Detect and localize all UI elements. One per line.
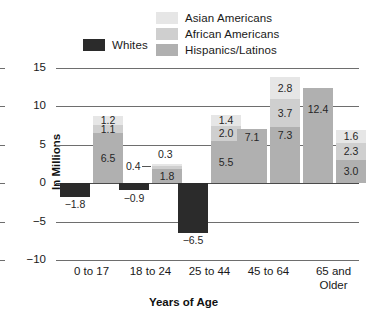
- y-tick-minus10: −10: [6, 253, 46, 265]
- segment-asian-0-to-17: 1.2: [93, 116, 123, 125]
- segment-asian-65-and-older: 1.6: [336, 130, 366, 142]
- bar-stack-65-and-older: 3.0 2.3 1.6: [336, 130, 366, 183]
- callout-line-african-18-to-24: [142, 166, 151, 167]
- segment-african-18-to-24: [152, 166, 182, 169]
- bar-whites-65-and-older: 12.4: [303, 88, 333, 183]
- segment-label-african-65-and-older: 2.3: [344, 146, 359, 157]
- y-tick-dash: [0, 106, 5, 107]
- segment-african-65-and-older: 2.3: [336, 143, 366, 161]
- bar-whites-0-to-17: [60, 183, 90, 197]
- bar-whites-45-to-64: 7.1: [237, 129, 267, 184]
- y-tick-dash: [0, 68, 5, 69]
- legend-label-asian-americans: Asian Americans: [185, 12, 272, 24]
- bar-label-whites-25-to-44: −6.5: [176, 234, 210, 246]
- bar-label-whites-65-and-older: 12.4: [308, 104, 328, 115]
- segment-hispanics-65-and-older: 3.0: [336, 160, 366, 183]
- gridline-minus10: [56, 260, 359, 261]
- segment-label-asian-65-and-older: 1.6: [344, 131, 359, 142]
- y-tick-15: 15: [6, 61, 46, 73]
- y-tick-dash: [0, 222, 5, 223]
- segment-label-hispanics-25-to-44: 5.5: [219, 157, 234, 168]
- y-tick-minus5: −5: [6, 215, 46, 227]
- segment-hispanics-0-to-17: 6.5: [93, 133, 123, 183]
- segment-label-hispanics-45-to-64: 7.3: [278, 130, 293, 141]
- legend-item-hispanics-latinos: Hispanics/Latinos: [156, 42, 279, 57]
- bar-whites-25-to-44: [178, 183, 208, 233]
- segment-asian-25-to-44: 1.4: [211, 115, 241, 126]
- legend-group-minorities: Asian Americans African Americans Hispan…: [156, 10, 279, 58]
- legend-swatch-hispanics-latinos: [156, 44, 178, 56]
- y-tick-dash: [0, 260, 5, 261]
- legend-label-african-americans: African Americans: [185, 28, 279, 40]
- bar-chart: Asian Americans African Americans Hispan…: [0, 0, 367, 324]
- segment-asian-45-to-64: 2.8: [270, 77, 300, 99]
- bar-label-wrap-whites-45-to-64: 7.1: [237, 129, 267, 184]
- bar-label-whites-0-to-17: −1.8: [60, 198, 90, 210]
- gridline-15: [56, 68, 359, 69]
- x-tick-45-to-64: 45 to 64: [233, 264, 304, 278]
- bar-whites-18-to-24: [119, 183, 149, 190]
- bar-stack-0-to-17: 6.5 1.1 1.2: [93, 115, 123, 184]
- y-tick-5: 5: [6, 138, 46, 150]
- legend-swatch-whites: [83, 39, 105, 51]
- x-tick-65-and-older: 65 and Older: [298, 264, 367, 292]
- y-tick-0: 0: [6, 176, 46, 188]
- legend-item-asian-americans: Asian Americans: [156, 10, 279, 25]
- segment-label-hispanics-65-and-older: 3.0: [344, 166, 359, 177]
- segment-hispanics-18-to-24: 1.8: [152, 169, 182, 183]
- segment-label-hispanics-0-to-17: 6.5: [101, 153, 116, 164]
- segment-african-45-to-64: 3.7: [270, 99, 300, 127]
- y-tick-dash: [0, 183, 5, 184]
- segment-label-african-25-to-44: 2.0: [219, 128, 234, 139]
- callout-label-asian-18-to-24: 0.3: [158, 148, 173, 160]
- legend-item-african-americans: African Americans: [156, 26, 279, 41]
- bar-stack-45-to-64: 7.3 3.7 2.8: [270, 77, 300, 183]
- bar-label-whites-45-to-64: 7.1: [245, 132, 260, 143]
- y-tick-10: 10: [6, 99, 46, 111]
- segment-label-african-45-to-64: 3.7: [278, 108, 293, 119]
- plot-area: In Millions 15 10 5 0 −5 −10 −1.8 6.5 1.…: [56, 68, 359, 260]
- segment-african-0-to-17: 1.1: [93, 125, 123, 133]
- segment-asian-18-to-24: [152, 164, 182, 166]
- chart-legend: Asian Americans African Americans Hispan…: [0, 0, 367, 64]
- bar-stack-18-to-24: 1.8: [152, 164, 182, 183]
- segment-label-asian-0-to-17: 1.2: [101, 115, 116, 126]
- segment-label-hispanics-18-to-24: 1.8: [160, 171, 175, 182]
- segment-label-asian-25-to-44: 1.4: [219, 115, 234, 126]
- callout-label-african-18-to-24: 0.4: [126, 160, 141, 172]
- legend-item-whites: Whites: [83, 39, 148, 51]
- bar-label-wrap-whites-65-and-older: 12.4: [303, 88, 333, 183]
- segment-hispanics-45-to-64: 7.3: [270, 127, 300, 183]
- segment-label-african-0-to-17: 1.1: [101, 124, 116, 135]
- y-axis-title: In Millions: [50, 134, 62, 190]
- bar-label-whites-18-to-24: −0.9: [117, 192, 151, 204]
- segment-label-asian-45-to-64: 2.8: [278, 83, 293, 94]
- x-axis-title: Years of Age: [0, 296, 367, 308]
- legend-label-whites: Whites: [112, 39, 148, 51]
- y-tick-dash: [0, 145, 5, 146]
- legend-swatch-asian-americans: [156, 12, 178, 24]
- legend-label-hispanics-latinos: Hispanics/Latinos: [185, 44, 277, 56]
- legend-swatch-african-americans: [156, 28, 178, 40]
